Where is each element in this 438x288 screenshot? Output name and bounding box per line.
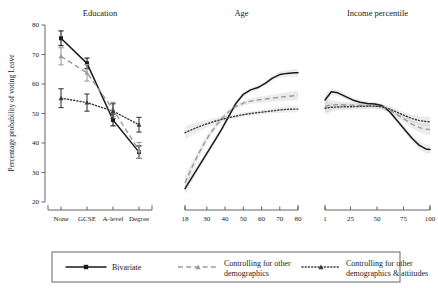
legend-marker-bivariate — [84, 265, 88, 269]
series-line — [61, 56, 139, 150]
x-tick-label-60: 60 — [258, 215, 266, 223]
legend-label-demographics_attitudes: Controlling for other — [346, 259, 413, 268]
x-tick-label-50: 50 — [373, 215, 381, 223]
x-axis: NoneGCSEA-levelDegree — [48, 205, 152, 223]
panel-education: EducationNoneGCSEA-levelDegree — [48, 8, 152, 223]
x-tick-label-40: 40 — [222, 215, 230, 223]
legend-label-demographics: Controlling for other — [224, 259, 291, 268]
confidence-bands — [325, 88, 430, 154]
x-tick-label-25: 25 — [347, 215, 355, 223]
series-line — [61, 38, 139, 152]
series-lines — [61, 38, 139, 152]
panel-title: Education — [83, 8, 118, 18]
legend-label-demographics-line2: demographics — [224, 269, 269, 278]
data-point-marker — [59, 36, 63, 40]
x-tick-label: None — [53, 215, 68, 223]
y-tick-label-70: 70 — [32, 51, 40, 59]
confidence-bands — [185, 69, 298, 195]
x-tick-label-80: 80 — [295, 215, 303, 223]
confidence-band — [185, 69, 298, 195]
legend-item-bivariate: Bivariate — [66, 263, 142, 272]
y-tick-label-60: 60 — [32, 80, 40, 88]
legend-item-demographics_attitudes: Controlling for otherdemographics & atti… — [302, 259, 428, 279]
series-lines — [185, 73, 298, 189]
legend-label-demographics_attitudes-line2: demographics & attitudes — [346, 269, 428, 278]
x-tick-label: GCSE — [78, 215, 96, 223]
panel-title: Income percentile — [347, 8, 408, 18]
confidence-band — [185, 106, 298, 140]
data-point-marker — [85, 100, 90, 104]
series-line — [61, 98, 139, 125]
panel-title: Age — [234, 8, 248, 18]
y-tick-label-50: 50 — [32, 110, 40, 118]
series-line — [185, 73, 298, 189]
x-tick-label-30: 30 — [203, 215, 211, 223]
confidence-band — [185, 91, 298, 190]
legend-item-demographics: Controlling for otherdemographics — [178, 259, 291, 279]
x-axis: 1255075100 — [323, 205, 436, 223]
y-tick-label-80: 80 — [32, 21, 40, 29]
panel-age: Age18304050607080 — [182, 8, 303, 223]
x-tick-label-18: 18 — [182, 215, 190, 223]
x-tick-label-70: 70 — [276, 215, 284, 223]
y-tick-label-30: 30 — [32, 169, 40, 177]
y-axis-title: Percentage probability of voting Leave — [7, 54, 16, 172]
y-tick-label-40: 40 — [32, 139, 40, 147]
legend: BivariateControlling for otherdemographi… — [52, 252, 428, 282]
x-axis: 18304050607080 — [182, 205, 303, 223]
data-point-marker — [137, 122, 142, 126]
chart-svg: 20304050607080Percentage probability of … — [0, 0, 438, 288]
data-point-marker — [59, 96, 64, 100]
data-point-marker — [59, 54, 64, 58]
figure-root: 20304050607080Percentage probability of … — [0, 0, 438, 288]
x-tick-label-100: 100 — [425, 215, 436, 223]
x-tick-label-75: 75 — [400, 215, 408, 223]
x-tick-label-1: 1 — [323, 215, 327, 223]
x-tick-label: Degree — [129, 215, 149, 223]
x-tick-label-50: 50 — [240, 215, 248, 223]
y-tick-label-20: 20 — [32, 198, 40, 206]
x-tick-label: A-level — [103, 215, 124, 223]
panel-income-percentile: Income percentile1255075100 — [323, 8, 436, 223]
legend-label-bivariate: Bivariate — [112, 263, 142, 272]
y-axis: 20304050607080Percentage probability of … — [7, 21, 45, 206]
